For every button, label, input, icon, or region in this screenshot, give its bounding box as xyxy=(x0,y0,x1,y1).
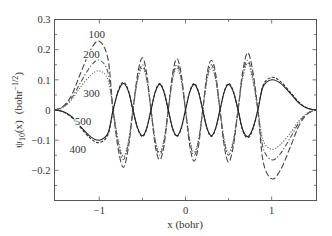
series-label-200: 200 xyxy=(83,48,100,60)
y-axis-arg: (x) xyxy=(12,120,25,133)
y-tick-labels: −0.2−0.100.10.20.3 xyxy=(31,14,50,176)
y-tick-label: 0 xyxy=(45,105,50,116)
x-tick-label: −1 xyxy=(94,205,105,216)
y-axis-title: ψ10(x)(bohr−1/2) xyxy=(11,72,27,148)
y-tick-label: 0.3 xyxy=(37,14,50,25)
x-axis-title: x (bohr) xyxy=(167,218,203,231)
plot-curves xyxy=(55,41,317,179)
y-axis-unit-sup: −1/2 xyxy=(11,76,20,91)
series-label-300: 300 xyxy=(83,87,100,99)
y-tick-label: −0.2 xyxy=(31,165,50,176)
series-label-100: 100 xyxy=(88,28,105,40)
y-axis-unit-open: (bohr xyxy=(12,90,25,114)
y-tick-label: −0.1 xyxy=(31,135,50,146)
series-label-400: 400 xyxy=(70,143,87,155)
x-tick-label: 1 xyxy=(269,205,274,216)
x-tick-labels: −101 xyxy=(94,205,275,216)
y-tick-label: 0.2 xyxy=(37,44,50,55)
x-tick-label: 0 xyxy=(183,205,188,216)
y-tick-label: 0.1 xyxy=(37,75,50,86)
y-axis-subscript: 10 xyxy=(18,133,27,141)
wavefunction-chart: −0.2−0.100.10.20.3 −101 100200300500400 … xyxy=(0,0,332,236)
y-axis-unit-close: ) xyxy=(12,72,25,76)
series-label-500: 500 xyxy=(75,115,92,127)
